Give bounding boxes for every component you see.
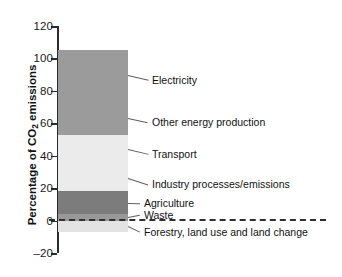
segment-label: Industry processes/emissions bbox=[152, 178, 290, 190]
segment-label: Transport bbox=[152, 148, 197, 160]
y-axis-tick-label: 120 bbox=[34, 20, 54, 32]
y-axis-tick-label: 20 bbox=[40, 182, 53, 194]
y-axis-tick-label: 40 bbox=[40, 150, 53, 162]
segment-label: Agriculture bbox=[144, 197, 194, 209]
y-axis-tick-label: 80 bbox=[40, 85, 53, 97]
leader-line bbox=[128, 226, 141, 233]
y-axis-tick-label: 100 bbox=[34, 52, 54, 64]
leader-line bbox=[128, 118, 148, 124]
bar-segment bbox=[58, 135, 128, 164]
y-axis-tick-label: 60 bbox=[40, 117, 53, 129]
leader-line bbox=[128, 75, 148, 81]
bar-segment bbox=[58, 101, 128, 135]
leader-line bbox=[128, 149, 148, 155]
segment-label: Other energy production bbox=[152, 116, 265, 128]
bar-segment bbox=[58, 191, 128, 214]
segment-label: Forestry, land use and land change bbox=[144, 226, 308, 238]
leader-line bbox=[128, 203, 140, 205]
bar-segment bbox=[58, 50, 128, 100]
leader-line bbox=[128, 178, 148, 186]
bar-segment bbox=[58, 164, 128, 192]
bar-segment bbox=[58, 221, 128, 232]
y-axis-tick-label: –20 bbox=[34, 247, 54, 259]
y-axis-title: Percentage of CO2 emissions bbox=[26, 50, 40, 240]
segment-label: Electricity bbox=[152, 74, 197, 86]
segment-label: Waste bbox=[144, 209, 173, 221]
y-axis-title-suffix: emissions bbox=[26, 65, 38, 124]
y-axis-title-prefix: Percentage of CO bbox=[26, 129, 38, 226]
zero-reference-line bbox=[49, 219, 326, 221]
y-axis-title-subscript: 2 bbox=[30, 124, 40, 129]
co2-emissions-stacked-bar-chart: Percentage of CO2 emissions 120100806040… bbox=[0, 0, 342, 277]
